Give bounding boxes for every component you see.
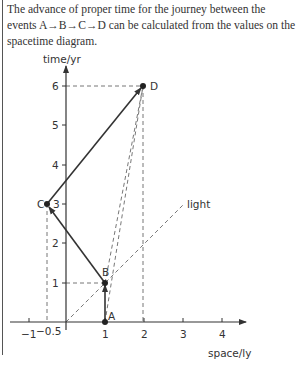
light-label: light (187, 198, 210, 210)
x-axis-label: space/ly (208, 347, 251, 359)
event-d-label: D (150, 80, 158, 92)
y-axis-label: time/yr (43, 53, 81, 65)
xtick-3: 3 (180, 328, 187, 340)
ytick-2: 2 (52, 237, 59, 249)
event-d-dot (140, 83, 146, 89)
xtick-4: 4 (219, 328, 226, 340)
xtick-neg1: −1 (21, 328, 36, 340)
guide-lines (47, 86, 183, 322)
xtick-1: 1 (102, 328, 109, 340)
ytick-3: 3 (53, 198, 60, 210)
event-b-label: B (102, 266, 109, 278)
xtick-2: 2 (141, 328, 148, 340)
worldline (47, 88, 141, 322)
event-b-dot (102, 280, 108, 286)
ytick-5: 5 (52, 119, 59, 131)
event-c-dot (44, 201, 50, 207)
event-c-label: C (37, 198, 44, 210)
spacetime-diagram: time/yr space/ly 1 2 3 4 5 6 −1 −0.5 1 2… (0, 0, 301, 369)
event-a-label: A (108, 310, 116, 322)
ytick-4: 4 (52, 159, 59, 171)
ytick-6: 6 (52, 80, 59, 92)
xtick-neg05: −0.5 (36, 325, 62, 337)
ytick-1: 1 (52, 277, 59, 289)
light-line (66, 205, 183, 322)
